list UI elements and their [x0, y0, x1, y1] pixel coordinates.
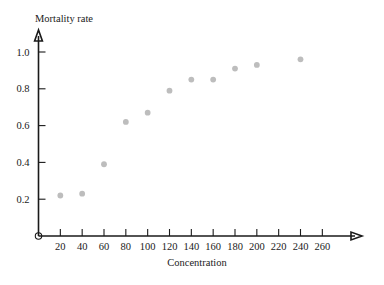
y-tick-label: 0.8	[16, 83, 29, 94]
data-point-marker	[123, 119, 129, 125]
x-tick-label: 20	[55, 241, 66, 252]
data-point-marker	[188, 77, 194, 83]
y-axis-tick-labels: 0.20.40.60.81.0	[16, 47, 30, 205]
axes	[35, 30, 362, 240]
y-tick-label: 0.2	[16, 194, 29, 205]
data-point-marker	[101, 161, 107, 167]
data-point-marker	[232, 66, 238, 72]
y-axis-title-label: Mortality rate	[35, 13, 93, 24]
data-point-marker	[145, 110, 151, 116]
data-point-marker	[254, 62, 260, 68]
y-tick-label: 1.0	[16, 47, 29, 58]
x-axis-tick-labels: 20406080100120140160180200220240260	[55, 241, 330, 252]
x-tick-label: 120	[162, 241, 178, 252]
data-point-marker	[79, 191, 85, 197]
data-point-marker	[167, 88, 173, 94]
x-tick-label: 60	[99, 241, 110, 252]
y-tick-label: 0.6	[16, 120, 29, 131]
y-axis-title: Mortality rate	[35, 13, 93, 24]
x-tick-label: 260	[314, 241, 330, 252]
data-point-markers	[57, 56, 303, 198]
x-tick-label: 180	[227, 241, 243, 252]
data-point-marker	[210, 77, 216, 83]
data-point-marker	[57, 193, 63, 199]
plot-canvas: Mortality rate 0.20.40.60.81.0 204060801…	[0, 0, 384, 285]
data-point-marker	[298, 56, 304, 62]
x-tick-label: 160	[205, 241, 221, 252]
x-tick-label: 200	[249, 241, 265, 252]
x-axis-title: Concentration	[167, 257, 227, 268]
x-axis-title-label: Concentration	[167, 257, 227, 268]
x-axis-ticks	[60, 229, 322, 236]
x-tick-label: 100	[140, 241, 156, 252]
x-tick-label: 40	[77, 241, 88, 252]
x-tick-label: 220	[271, 241, 287, 252]
y-tick-label: 0.4	[16, 157, 30, 168]
x-tick-label: 80	[121, 241, 132, 252]
scatter-plot-figure: Mortality rate 0.20.40.60.81.0 204060801…	[0, 0, 384, 285]
x-tick-label: 240	[293, 241, 309, 252]
y-axis-ticks	[39, 52, 46, 199]
x-tick-label: 140	[183, 241, 199, 252]
